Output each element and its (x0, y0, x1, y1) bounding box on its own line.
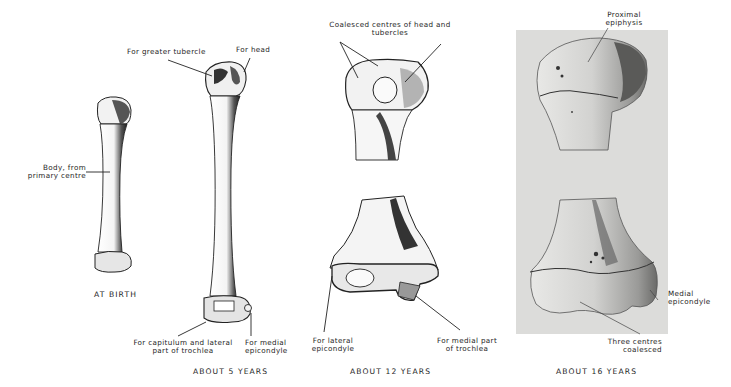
caption-about-12-years: ABOUT 12 YEARS (350, 367, 431, 376)
bone-about-16-years (530, 28, 658, 334)
label-lateral-epicondyle: For lateral epicondyle (310, 337, 356, 354)
label-capitulum: For capitulum and lateral part of trochl… (133, 339, 233, 356)
label-three-centres: Three centres coalesced (606, 338, 662, 355)
label-line: primary centre (20, 172, 86, 180)
bone-about-12-years (324, 42, 460, 332)
label-coalesced-head: Coalesced centres of head and tubercles (328, 21, 452, 38)
bone-illustrations (0, 0, 731, 387)
label-line: part of trochlea (133, 347, 233, 355)
label-for-head: For head (236, 46, 270, 54)
caption-about-16-years: ABOUT 16 YEARS (556, 367, 637, 376)
label-line: tubercles (328, 29, 452, 37)
caption-about-5-years: ABOUT 5 YEARS (193, 367, 268, 376)
bone-about-5-years (168, 58, 252, 336)
label-body-primary-centre: Body, from primary centre (20, 164, 86, 181)
label-line: epicondyle (310, 345, 356, 353)
label-proximal-epiphysis: Proximal epiphysis (604, 11, 644, 28)
label-medial-trochlea: For medial part of trochlea (436, 337, 498, 354)
ossification-figure: Body, from primary centre AT BIRTH For g… (0, 0, 731, 387)
label-line: coalesced (606, 346, 662, 354)
label-greater-tubercle: For greater tubercle (127, 48, 206, 56)
bone-at-birth (86, 97, 131, 272)
label-line: epicondyle (245, 347, 288, 355)
label-line: of trochlea (436, 345, 498, 353)
label-line: epiphysis (604, 19, 644, 27)
label-medial-epicondyle-5: For medial epicondyle (245, 339, 288, 356)
label-line: epicondyle (668, 298, 711, 306)
caption-at-birth: AT BIRTH (94, 290, 137, 299)
label-medial-epicondyle-16: Medial epicondyle (668, 290, 711, 307)
